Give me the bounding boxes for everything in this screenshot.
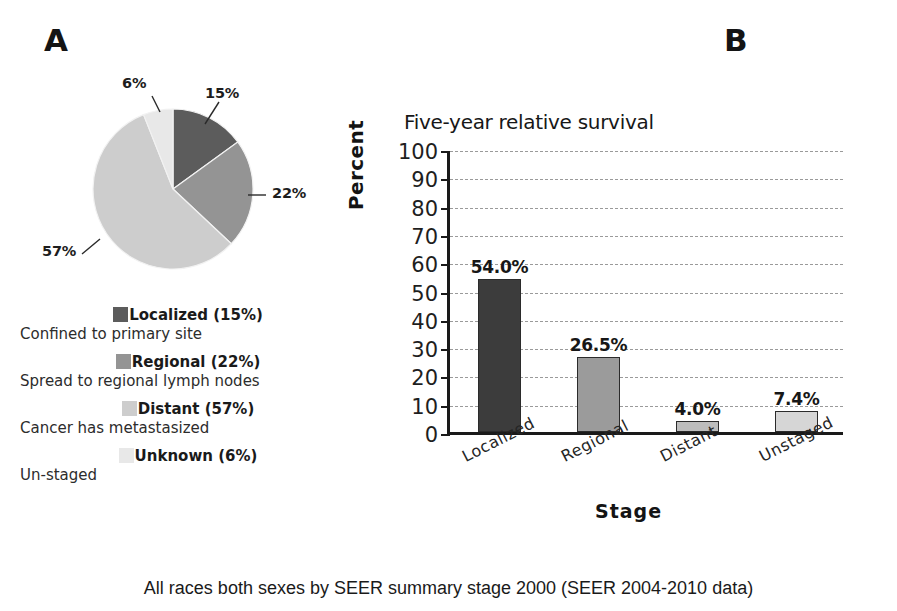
legend-swatch-icon bbox=[113, 307, 128, 322]
y-axis-tick bbox=[441, 349, 450, 351]
legend-item-header: Regional (22%) bbox=[0, 352, 370, 371]
y-axis-tick-label: 10 bbox=[392, 395, 438, 419]
y-axis-tick-label: 30 bbox=[392, 338, 438, 362]
pie-legend: Localized (15%)Confined to primary siteR… bbox=[0, 305, 370, 493]
legend-swatch-icon bbox=[116, 354, 131, 369]
y-axis-tick bbox=[441, 321, 450, 323]
y-axis-tick bbox=[441, 208, 450, 210]
x-axis-label: Stage bbox=[360, 500, 897, 522]
y-axis-tick-label: 60 bbox=[392, 253, 438, 277]
bar-value-label: 7.4% bbox=[774, 389, 820, 409]
legend-item-description: Cancer has metastasized bbox=[0, 419, 370, 437]
bar-chart-title: Five-year relative survival bbox=[404, 110, 654, 134]
legend-item: Distant (57%)Cancer has metastasized bbox=[0, 399, 370, 437]
figure-root: A 6% 15% 22% 57% Localized (15%)Confined… bbox=[0, 0, 897, 611]
legend-item: Regional (22%)Spread to regional lymph n… bbox=[0, 352, 370, 390]
bar-chart-plot-area: 0102030405060708090100 54.0%26.5%4.0%7.4… bbox=[447, 152, 843, 435]
y-axis-tick bbox=[441, 434, 450, 436]
legend-swatch-icon bbox=[122, 401, 137, 416]
y-axis-tick bbox=[441, 151, 450, 153]
legend-item-header: Distant (57%) bbox=[0, 399, 370, 418]
panel-a: A 6% 15% 22% 57% Localized (15%)Confined… bbox=[0, 0, 370, 611]
panel-b-letter: B bbox=[724, 22, 748, 58]
gridline bbox=[450, 179, 843, 180]
legend-item-description: Spread to regional lymph nodes bbox=[0, 372, 370, 390]
y-axis-tick-label: 100 bbox=[392, 140, 438, 164]
panel-b: B Five-year relative survival Percent 01… bbox=[360, 0, 897, 611]
pie-callout-distant: 57% bbox=[42, 243, 76, 259]
gridline bbox=[450, 208, 843, 209]
y-axis-label: Percent bbox=[344, 120, 368, 210]
bar-localized bbox=[478, 279, 521, 432]
y-axis-tick-label: 70 bbox=[392, 225, 438, 249]
legend-item-title: Distant (57%) bbox=[138, 400, 255, 418]
y-axis-tick-label: 80 bbox=[392, 197, 438, 221]
bar-value-label: 54.0% bbox=[471, 257, 528, 277]
legend-item: Unknown (6%)Un-staged bbox=[0, 446, 370, 484]
legend-item-title: Unknown (6%) bbox=[135, 447, 258, 465]
y-axis-tick bbox=[441, 406, 450, 408]
y-axis-tick bbox=[441, 264, 450, 266]
y-axis-tick-label: 20 bbox=[392, 366, 438, 390]
pie-callout-localized: 15% bbox=[205, 85, 239, 101]
y-axis-tick bbox=[441, 377, 450, 379]
pie-callout-regional: 22% bbox=[272, 185, 306, 201]
legend-swatch-icon bbox=[119, 448, 134, 463]
y-axis-tick-label: 90 bbox=[392, 168, 438, 192]
legend-item-description: Un-staged bbox=[0, 466, 370, 484]
pie-callout-unknown: 6% bbox=[122, 75, 146, 91]
legend-item-title: Regional (22%) bbox=[132, 353, 261, 371]
y-axis-tick bbox=[441, 179, 450, 181]
gridline bbox=[450, 151, 843, 152]
y-axis-tick-label: 0 bbox=[392, 423, 438, 447]
figure-caption: All races both sexes by SEER summary sta… bbox=[0, 578, 897, 599]
y-axis-tick bbox=[441, 236, 450, 238]
legend-item-description: Confined to primary site bbox=[0, 325, 370, 343]
gridline bbox=[450, 236, 843, 237]
legend-item: Localized (15%)Confined to primary site bbox=[0, 305, 370, 343]
bar-value-label: 4.0% bbox=[675, 399, 721, 419]
y-axis-tick bbox=[441, 293, 450, 295]
y-axis-tick-label: 40 bbox=[392, 310, 438, 334]
legend-item-title: Localized (15%) bbox=[129, 306, 263, 324]
y-axis-tick-label: 50 bbox=[392, 282, 438, 306]
legend-item-header: Localized (15%) bbox=[0, 305, 370, 324]
legend-item-header: Unknown (6%) bbox=[0, 446, 370, 465]
bar-value-label: 26.5% bbox=[570, 335, 627, 355]
